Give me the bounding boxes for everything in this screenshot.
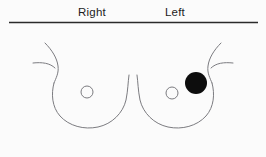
left-breast-mass-marker [185,72,207,94]
breast-diagram-figure: Right Left [0,0,266,157]
right-axillary-fold-line [33,63,55,68]
left-axillary-upper-curve [208,43,221,83]
right-breast-outline [33,43,129,128]
left-axillary-fold-line [211,63,233,68]
right-axillary-upper-curve [45,43,58,83]
left-breast-outline [137,43,233,128]
breast-diagram-canvas [0,0,266,157]
right-nipple [81,86,93,98]
left-nipple [166,87,178,99]
right-breast-contour [52,75,129,128]
